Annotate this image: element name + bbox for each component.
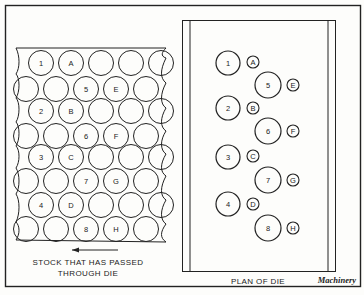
- die-hole-label: 7: [266, 176, 270, 185]
- stock-hole-label: 5: [84, 85, 88, 94]
- stock-hole: [14, 217, 39, 242]
- stock-hole: 1: [29, 51, 54, 76]
- stock-hole-label: E: [113, 85, 118, 94]
- stock-hole-label: D: [68, 201, 74, 210]
- stock-hole-label: 7: [84, 177, 88, 186]
- die-hole-7: 7G: [255, 167, 299, 193]
- stock-hole: B: [59, 99, 84, 124]
- die-holes: 1A5E2B6F3C7G4D8H: [216, 51, 299, 241]
- die-caption: PLAN OF DIE: [231, 277, 285, 286]
- stock-hole-label: 8: [84, 225, 88, 234]
- stock-hole: [149, 51, 174, 76]
- stock-hole: [89, 51, 114, 76]
- stock-hole: 7: [74, 169, 99, 194]
- stock-hole: 5: [74, 77, 99, 102]
- stock-hole-label: 1: [39, 59, 43, 68]
- die-plate-outline: [183, 21, 336, 272]
- stock-hole-label: A: [68, 59, 73, 68]
- stock-hole-label: 4: [39, 201, 43, 210]
- die-hole-6: 6F: [255, 118, 299, 144]
- stock-hole: [14, 77, 39, 102]
- stock-hole: E: [104, 77, 129, 102]
- stock-hole: G: [104, 169, 129, 194]
- die-hole-small-label: F: [291, 127, 296, 136]
- stock-hole: A: [59, 51, 84, 76]
- stock-hole: [134, 217, 159, 242]
- stock-hole: [134, 77, 159, 102]
- stock-caption-line1: STOCK THAT HAS PASSED: [33, 258, 144, 267]
- stock-hole: [134, 124, 159, 149]
- die-diagram: 1A5E2B6F3C7G4D8H STOCK THAT HAS PASSED T…: [0, 0, 364, 295]
- stock-hole: 2: [29, 99, 54, 124]
- stock-hole: [119, 51, 144, 76]
- die-hole-label: 8: [266, 224, 270, 233]
- die-hole-small-label: H: [290, 224, 295, 233]
- stock-hole-label: G: [113, 177, 119, 186]
- stock-hole-label: 6: [84, 132, 88, 141]
- die-hole-small-label: D: [250, 200, 256, 209]
- credit-machinery: Machinery: [317, 275, 356, 285]
- stock-hole: [119, 99, 144, 124]
- stock-hole: [89, 145, 114, 170]
- stock-hole: [44, 77, 69, 102]
- die-hole-8: 8H: [255, 215, 299, 241]
- stock-hole: [44, 124, 69, 149]
- stock-hole: [89, 193, 114, 218]
- stock-hole: 8: [74, 217, 99, 242]
- die-hole-label: 2: [226, 104, 230, 113]
- die-hole-2: 2B: [216, 96, 259, 120]
- stock-holes: 1A5E2B6F3C7G4D8H: [14, 51, 174, 242]
- stock-hole: 3: [29, 145, 54, 170]
- stock-hole-label: B: [68, 107, 73, 116]
- stock-hole: [14, 169, 39, 194]
- stock-hole: [44, 217, 69, 242]
- die-hole-label: 5: [266, 81, 270, 90]
- die-hole-label: 3: [226, 153, 230, 162]
- stock-hole: [14, 124, 39, 149]
- stock-hole: [119, 193, 144, 218]
- die-hole-3: 3C: [216, 145, 259, 169]
- die-hole-5: 5E: [255, 72, 299, 98]
- die-hole-1: 1A: [216, 51, 259, 75]
- stock-hole: 6: [74, 124, 99, 149]
- stock-hole: [44, 169, 69, 194]
- stock-hole-label: H: [113, 225, 118, 234]
- die-hole-label: 4: [226, 200, 230, 209]
- stock-hole: D: [59, 193, 84, 218]
- stock-hole-label: 2: [39, 107, 43, 116]
- stock-hole: 4: [29, 193, 54, 218]
- die-hole-small-label: A: [250, 58, 255, 67]
- die-hole-small-label: G: [290, 176, 296, 185]
- die-hole-small-label: C: [250, 152, 256, 161]
- stock-hole-label: F: [114, 132, 119, 141]
- die-hole-small-label: B: [250, 104, 255, 113]
- die-hole-small-label: E: [290, 81, 295, 90]
- die-hole-4: 4D: [216, 192, 259, 216]
- stock-hole: [149, 99, 174, 124]
- stock-strip: 1A5E2B6F3C7G4D8H STOCK THAT HAS PASSED T…: [14, 48, 174, 278]
- stock-hole-label: C: [68, 153, 74, 162]
- stock-caption-line2: THROUGH DIE: [58, 269, 118, 278]
- stock-hole: H: [104, 217, 129, 242]
- stock-hole: [89, 99, 114, 124]
- stock-hole: [149, 193, 174, 218]
- stock-hole: [134, 169, 159, 194]
- die-plan: 1A5E2B6F3C7G4D8H PLAN OF DIE: [183, 21, 336, 287]
- die-hole-label: 6: [266, 127, 270, 136]
- stock-hole: C: [59, 145, 84, 170]
- stock-hole: F: [104, 124, 129, 149]
- stock-hole-label: 3: [39, 153, 43, 162]
- arrow-left-icon: [72, 248, 118, 253]
- stock-hole: [119, 145, 144, 170]
- die-hole-label: 1: [226, 59, 230, 68]
